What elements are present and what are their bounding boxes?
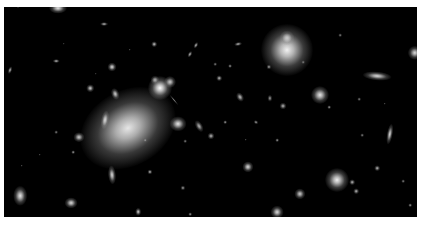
galaxy <box>49 7 67 13</box>
galaxy <box>100 22 108 26</box>
galaxy-cluster-image <box>4 7 417 217</box>
galaxy <box>135 208 141 216</box>
galaxy <box>271 206 284 217</box>
galaxy <box>63 43 65 45</box>
galaxy <box>267 95 272 102</box>
galaxy <box>216 75 222 81</box>
galaxy <box>208 133 215 140</box>
galaxy <box>193 119 205 133</box>
galaxy <box>311 86 329 104</box>
galaxy <box>188 212 192 216</box>
galaxy <box>95 73 97 75</box>
galaxy <box>151 76 160 85</box>
galaxy <box>242 161 253 172</box>
galaxy <box>151 41 157 47</box>
galaxy <box>408 203 412 207</box>
galaxy <box>408 46 417 60</box>
galaxy <box>280 103 287 110</box>
galaxy <box>360 133 364 137</box>
galaxy <box>253 119 259 125</box>
galaxy <box>327 105 331 109</box>
galaxy <box>7 66 13 75</box>
galaxy <box>53 59 60 63</box>
galaxy <box>325 168 349 192</box>
galaxy <box>193 41 200 49</box>
galaxy <box>65 197 78 208</box>
galaxy <box>235 91 246 103</box>
galaxy <box>280 31 295 46</box>
galaxy <box>39 154 41 156</box>
galaxy <box>143 138 147 142</box>
galaxy <box>384 103 386 105</box>
galaxy <box>16 7 20 8</box>
galaxy <box>187 50 194 58</box>
galaxy <box>234 41 242 46</box>
galaxy <box>294 188 305 199</box>
galaxy <box>338 33 342 37</box>
galaxy <box>275 138 279 142</box>
galaxy <box>374 165 380 171</box>
galaxy <box>170 116 187 131</box>
galaxy <box>228 64 232 68</box>
galaxy <box>108 63 117 72</box>
galaxy <box>362 70 391 81</box>
galaxy <box>401 179 405 183</box>
galaxy <box>71 150 75 154</box>
galaxy <box>385 123 395 145</box>
galaxy <box>54 130 58 134</box>
galaxy <box>183 139 187 143</box>
galaxy <box>73 132 84 142</box>
galaxy <box>245 139 247 141</box>
galaxy <box>180 185 185 190</box>
galaxy <box>213 62 217 66</box>
galaxy <box>129 49 131 51</box>
galaxy <box>147 169 152 174</box>
galaxy <box>21 165 23 167</box>
galaxy <box>223 120 227 124</box>
galaxy <box>164 76 176 88</box>
galaxy <box>349 179 355 185</box>
galaxy <box>301 60 305 64</box>
galaxy <box>13 186 27 206</box>
galaxy <box>353 188 359 194</box>
galaxy <box>86 84 94 92</box>
galaxy <box>357 97 361 101</box>
